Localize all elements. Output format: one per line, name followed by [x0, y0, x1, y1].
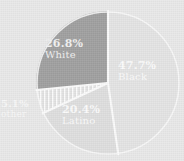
- pie-chart: 47.7% Black 26.8% White 20.4% Latino 5.1…: [0, 0, 184, 161]
- pie-label-latino-value: 20.4%: [62, 104, 100, 116]
- pie-slice-black: [108, 11, 180, 154]
- pie-label-other-value: 5.1%: [1, 99, 29, 110]
- pie-label-black-value: 47.7%: [118, 60, 156, 72]
- pie-label-black: 47.7% Black: [118, 60, 156, 82]
- pie-label-latino-name: Latino: [62, 116, 100, 127]
- pie-label-white: 26.8% White: [45, 38, 83, 60]
- pie-label-other: 5.1% other: [1, 99, 29, 119]
- pie-label-latino: 20.4% Latino: [62, 104, 100, 126]
- pie-label-white-name: White: [45, 50, 83, 61]
- pie-label-white-value: 26.8%: [45, 38, 83, 50]
- pie-label-other-name: other: [1, 110, 29, 120]
- pie-label-black-name: Black: [118, 72, 156, 83]
- pie-chart-svg: [0, 0, 184, 161]
